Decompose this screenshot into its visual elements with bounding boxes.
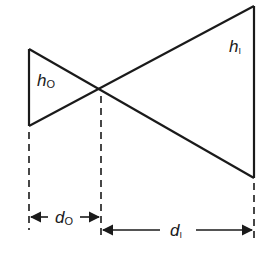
image-height-label: hI [229, 37, 241, 56]
lens-diagram: hO hI dO dI [0, 0, 263, 256]
object-height-label: hO [37, 71, 55, 90]
image-distance-label: dI [170, 221, 182, 240]
object-distance-label: dO [55, 208, 73, 227]
object-triangle [29, 6, 254, 178]
